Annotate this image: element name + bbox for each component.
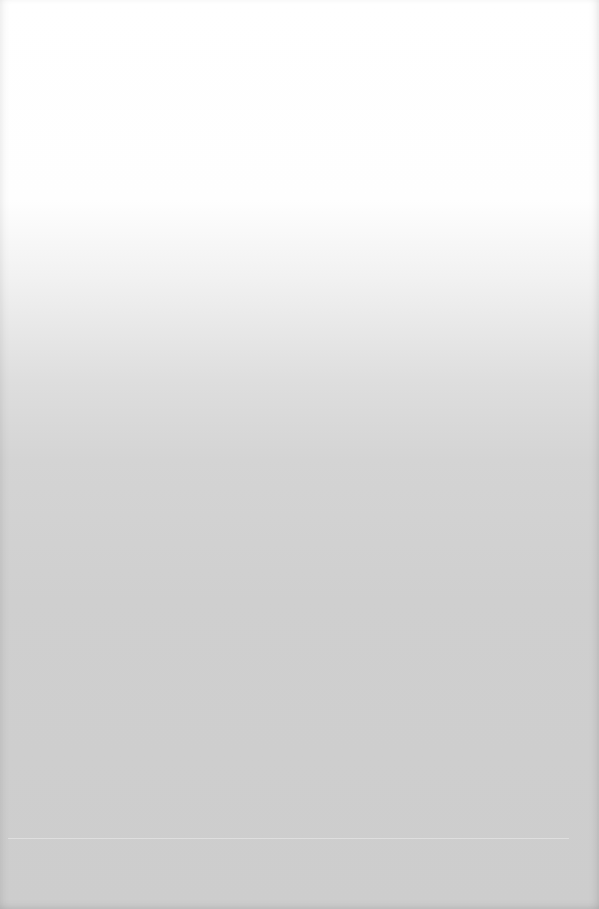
blank-page [0,0,599,909]
page-edge-shading [0,0,599,909]
faint-scan-line [8,838,569,839]
